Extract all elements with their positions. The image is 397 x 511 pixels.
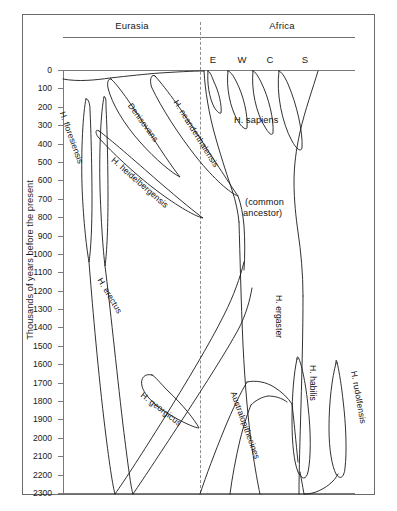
y-tick-mark	[58, 107, 63, 108]
y-tick-mark	[58, 144, 63, 145]
y-tick-label: 1800	[14, 397, 52, 406]
y-tick-label: 0	[14, 66, 52, 75]
y-tick-mark	[58, 383, 63, 384]
y-tick-mark	[58, 180, 63, 181]
y-tick-mark	[58, 309, 63, 310]
y-tick-mark	[58, 493, 63, 494]
y-tick-mark	[58, 346, 63, 347]
y-tick-mark	[58, 254, 63, 255]
y-tick-label: 1900	[14, 415, 52, 424]
y-axis-title: Thousands of years before the present	[25, 160, 35, 360]
axis-y-line	[63, 70, 64, 494]
figure-root: Eurasia Africa E W C S 01002003004005006…	[0, 0, 397, 511]
region-label-africa: Africa	[232, 20, 332, 31]
subregion-label-south: S	[297, 54, 313, 65]
label-common-ancestor-line1: (common	[245, 197, 284, 207]
y-tick-mark	[58, 272, 63, 273]
label-ergaster: H. ergaster	[274, 295, 284, 338]
figure-frame	[22, 14, 375, 495]
y-tick-mark	[58, 70, 63, 71]
label-habilis: H. habilis	[308, 365, 318, 401]
y-tick-mark	[58, 456, 63, 457]
axis-top-line	[63, 70, 355, 71]
y-tick-label: 200	[14, 103, 52, 112]
y-tick-mark	[58, 217, 63, 218]
label-common-ancestor-line2: ancestor)	[243, 208, 282, 218]
y-tick-mark	[58, 88, 63, 89]
y-tick-mark	[58, 475, 63, 476]
y-tick-label: 2100	[14, 452, 52, 461]
y-tick-mark	[58, 236, 63, 237]
y-tick-label: 300	[14, 121, 52, 130]
y-tick-mark	[58, 438, 63, 439]
y-tick-mark	[58, 419, 63, 420]
region-divider-rule	[63, 37, 355, 38]
y-tick-label: 1600	[14, 360, 52, 369]
y-tick-mark	[58, 327, 63, 328]
subregion-label-central: C	[262, 54, 278, 65]
y-tick-mark	[58, 291, 63, 292]
y-tick-label: 1700	[14, 379, 52, 388]
y-tick-mark	[58, 401, 63, 402]
subregion-label-west: W	[234, 54, 250, 65]
y-tick-label: 100	[14, 84, 52, 93]
y-tick-label: 400	[14, 140, 52, 149]
y-tick-label: 2300	[14, 489, 52, 498]
y-tick-mark	[58, 199, 63, 200]
label-sapiens: H. sapiens	[234, 115, 278, 125]
subregion-label-east: E	[205, 54, 221, 65]
eurasia-africa-dashed-divider	[200, 22, 201, 493]
y-tick-label: 2000	[14, 434, 52, 443]
region-label-eurasia: Eurasia	[82, 20, 182, 31]
y-tick-label: 2200	[14, 471, 52, 480]
axis-bottom-line	[63, 493, 355, 494]
y-tick-mark	[58, 162, 63, 163]
y-tick-mark	[58, 364, 63, 365]
